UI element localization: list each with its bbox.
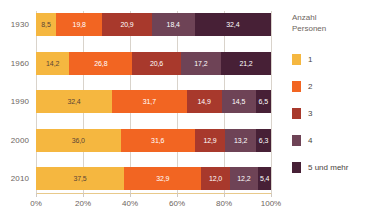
y-axis-label: 2000 [0, 129, 34, 152]
legend-title: Anzahl Personen [292, 12, 365, 34]
legend-item[interactable]: 2 [292, 79, 365, 93]
bar-segment-label: 32,4 [226, 21, 239, 28]
bar-segment-label: 5,4 [260, 175, 269, 182]
bar-row: 32,431,714,914,56,5 [36, 90, 271, 113]
bar-segment-label: 17,2 [194, 60, 207, 67]
bar-segment: 14,2 [36, 52, 69, 75]
legend-swatch-icon [292, 162, 301, 173]
legend-item[interactable]: 5 und mehr [292, 160, 365, 174]
bar-segment: 19,8 [56, 13, 103, 36]
y-axis-label: 1960 [0, 52, 34, 75]
bar-segment: 36,0 [36, 129, 121, 152]
bar-row: 37,532,912,012,25,4 [36, 167, 271, 190]
y-axis-label: 1930 [0, 13, 34, 36]
legend-item-label: 5 und mehr [308, 163, 348, 172]
legend-swatch-icon [292, 108, 301, 119]
legend-item-label: 2 [308, 82, 312, 91]
x-axis-label: 80% [216, 199, 232, 208]
bar-segment: 26,8 [69, 52, 132, 75]
bar-segment-label: 31,6 [151, 137, 164, 144]
legend-item-label: 1 [308, 55, 312, 64]
gridline [271, 11, 272, 193]
bar-segment: 12,2 [230, 167, 259, 190]
bar-segment-label: 20,9 [120, 21, 133, 28]
bar-segment: 6,5 [256, 90, 271, 113]
legend-swatch-icon [292, 81, 301, 92]
stacked-bar-chart: 19301960199020002010 8,519,820,918,432,4… [0, 0, 365, 219]
bar-segment: 14,9 [187, 90, 222, 113]
bar-segment-label: 21,2 [239, 60, 252, 67]
bar-segment-label: 8,5 [41, 21, 50, 28]
legend-items: 12345 und mehr [292, 52, 365, 174]
bar-segment: 13,2 [225, 129, 256, 152]
legend-item-label: 4 [308, 136, 312, 145]
x-axis-tick [271, 193, 272, 197]
bar-segment: 21,2 [221, 52, 271, 75]
x-axis-labels: 0%20%40%60%80%100% [0, 199, 365, 213]
x-axis-tick [83, 193, 84, 197]
legend-item[interactable]: 1 [292, 52, 365, 66]
bar-segment-label: 14,9 [197, 98, 210, 105]
bar-segment: 31,6 [121, 129, 195, 152]
bar-segment-label: 20,6 [150, 60, 163, 67]
bar-segment-label: 12,0 [209, 175, 222, 182]
bar-segment: 8,5 [36, 13, 56, 36]
bar-segment: 32,4 [195, 13, 271, 36]
bar-segment-label: 18,4 [167, 21, 180, 28]
bar-segment-label: 37,5 [73, 175, 86, 182]
bar-segment-label: 6,3 [259, 137, 268, 144]
bar-segment: 20,9 [102, 13, 151, 36]
x-axis-label: 0% [30, 199, 42, 208]
bar-segment: 6,3 [256, 129, 271, 152]
x-axis-line [36, 193, 271, 194]
legend-swatch-icon [292, 135, 301, 146]
bar-segment-label: 32,4 [67, 98, 80, 105]
x-axis-label: 100% [261, 199, 281, 208]
y-axis-label: 1990 [0, 90, 34, 113]
bar-segment: 17,2 [181, 52, 221, 75]
legend-item[interactable]: 4 [292, 133, 365, 147]
bar-segment: 37,5 [36, 167, 124, 190]
bar-segment: 5,4 [258, 167, 271, 190]
bar-segment-label: 13,2 [234, 137, 247, 144]
bar-segment-label: 6,5 [259, 98, 268, 105]
bar-segment-label: 26,8 [94, 60, 107, 67]
bar-row: 36,031,612,913,26,3 [36, 129, 271, 152]
legend-item[interactable]: 3 [292, 106, 365, 120]
bar-segment-label: 12,9 [203, 137, 216, 144]
x-axis-tick [224, 193, 225, 197]
x-axis-tick [177, 193, 178, 197]
bar-segment: 31,7 [112, 90, 186, 113]
legend-item-label: 3 [308, 109, 312, 118]
bar-rows: 8,519,820,918,432,414,226,820,617,221,23… [36, 11, 271, 193]
bar-segment-label: 14,5 [232, 98, 245, 105]
bar-segment-label: 19,8 [73, 21, 86, 28]
bar-row: 8,519,820,918,432,4 [36, 13, 271, 36]
bar-segment: 14,5 [222, 90, 256, 113]
y-axis-labels: 19301960199020002010 [0, 11, 34, 193]
bar-segment: 12,0 [201, 167, 229, 190]
bar-segment-label: 12,2 [237, 175, 250, 182]
plot-area: 8,519,820,918,432,414,226,820,617,221,23… [36, 11, 271, 193]
bar-segment: 32,4 [36, 90, 112, 113]
x-axis-tick [36, 193, 37, 197]
x-axis-label: 20% [75, 199, 91, 208]
x-axis-tick [130, 193, 131, 197]
bar-segment-label: 32,9 [156, 175, 169, 182]
legend-swatch-icon [292, 54, 301, 65]
bar-segment-label: 14,2 [46, 60, 59, 67]
x-axis-label: 60% [169, 199, 185, 208]
bar-segment-label: 31,7 [143, 98, 156, 105]
bar-segment: 32,9 [124, 167, 201, 190]
bar-row: 14,226,820,617,221,2 [36, 52, 271, 75]
bar-segment: 18,4 [152, 13, 195, 36]
bar-segment: 12,9 [195, 129, 225, 152]
bar-segment-label: 36,0 [72, 137, 85, 144]
x-axis-label: 40% [122, 199, 138, 208]
y-axis-label: 2010 [0, 167, 34, 190]
legend: Anzahl Personen 12345 und mehr [292, 12, 365, 187]
bar-segment: 20,6 [132, 52, 180, 75]
